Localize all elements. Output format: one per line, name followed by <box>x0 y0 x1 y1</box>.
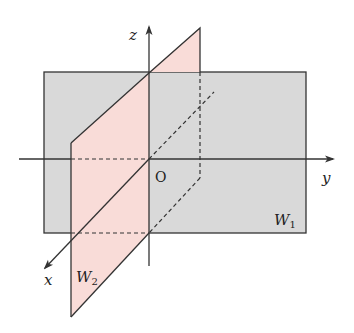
plane-w2-label-sub: 2 <box>91 276 97 287</box>
origin-label: O <box>155 169 166 185</box>
z-axis-label: z <box>128 26 137 44</box>
plane-w1-label-sub: 1 <box>289 219 295 230</box>
coordinate-planes-diagram: z y x O W1 W2 <box>0 0 354 333</box>
y-axis-label: y <box>321 169 331 187</box>
x-axis-label: x <box>44 271 53 289</box>
